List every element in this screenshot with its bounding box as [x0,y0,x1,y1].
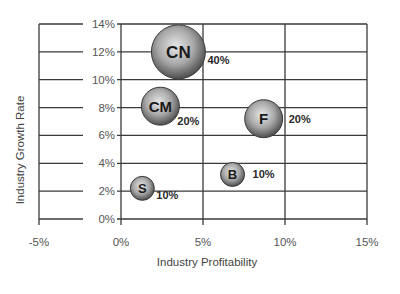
x-tick-label: 10% [273,236,296,248]
bubble-chart: 0%2%4%6%8%10%12%14% -5%0%5%10%15% CN40%C… [0,0,400,294]
bubble-f: F20% [245,100,311,138]
y-tick-label: 12% [92,46,115,58]
y-axis-ticks: 0%2%4%6%8%10%12%14% [92,18,115,225]
x-tick-label: 5% [195,236,212,248]
y-tick-label: 8% [98,102,115,114]
y-tick-label: 14% [92,18,115,30]
x-tick-label: 15% [355,236,378,248]
bubble-share-label: 10% [253,168,275,180]
y-axis-label: Industry Growth Rate [14,96,26,205]
y-tick-label: 0% [98,213,115,225]
y-tick-label: 4% [98,157,115,169]
bubble-share-label: 20% [289,113,311,125]
bubble-share-label: 10% [156,189,178,201]
bubble-share-label: 20% [177,115,199,127]
y-tick-label: 6% [98,129,115,141]
bubble-label: CM [149,98,172,115]
bubble-label: B [228,167,237,182]
x-axis-ticks: -5%0%5%10%15% [29,236,379,248]
x-axis-label: Industry Profitability [157,256,258,268]
bubble-b: B10% [221,162,275,186]
bubble-label: F [259,110,268,127]
bubble-share-label: 40% [207,54,229,66]
bubble-s: S10% [130,176,178,201]
y-tick-label: 10% [92,74,115,86]
bubble-label: S [138,181,147,196]
bubble-label: CN [166,43,191,62]
y-tick-label: 2% [98,185,115,197]
x-tick-label: 0% [113,236,130,248]
x-tick-label: -5% [29,236,49,248]
